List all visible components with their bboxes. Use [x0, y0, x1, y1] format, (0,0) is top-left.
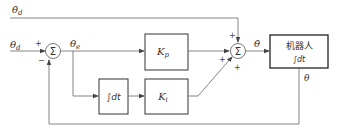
- svg-text:∫dt: ∫dt: [293, 55, 306, 64]
- theta-d-label: θd: [10, 39, 21, 52]
- ki-block: Ki: [145, 79, 188, 114]
- theta-e-label: θe: [70, 38, 80, 51]
- summing-junction-1: Σ: [46, 44, 61, 59]
- kp-block: Kp: [145, 34, 188, 70]
- sum2-plus-left: +: [219, 55, 226, 64]
- sum1-minus-sign: −: [38, 56, 45, 65]
- theta-output-label: θ: [304, 73, 310, 83]
- feedforward-path: [10, 18, 238, 42]
- svg-text:Σ: Σ: [50, 46, 56, 57]
- summing-junction-2: Σ: [231, 44, 246, 59]
- pi-control-block-diagram: θ̇d θd Σ + − θe Kp ∫dt Ki Σ + + + θ̇ 机器人: [0, 0, 340, 135]
- robot-block: 机器人 ∫dt: [270, 35, 328, 68]
- svg-text:机器人: 机器人: [286, 40, 313, 51]
- svg-text:Σ: Σ: [235, 46, 241, 57]
- theta-dot-label: θ̇: [254, 38, 260, 49]
- sum1-plus-sign: +: [35, 39, 42, 48]
- sum2-plus-bottom: +: [234, 63, 241, 72]
- integrator-block: ∫dt: [99, 79, 128, 114]
- theta-d-dot-label: θ̇d: [12, 4, 23, 17]
- svg-text:∫dt: ∫dt: [107, 92, 121, 102]
- error-to-integrator-line: [73, 51, 98, 96]
- sum2-plus-top: +: [229, 31, 236, 40]
